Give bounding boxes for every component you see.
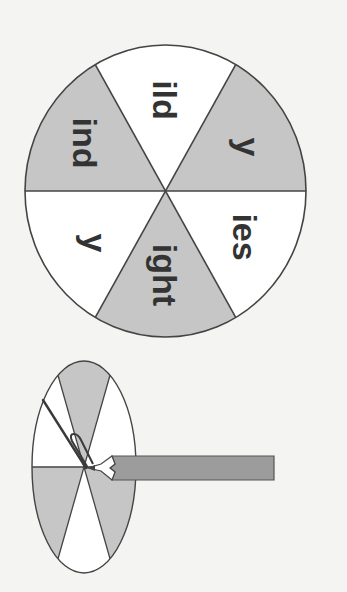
sector-label-bottom: ight: [146, 244, 184, 306]
small-spinner: [32, 361, 274, 573]
sector-label-upper-right: y: [229, 138, 267, 157]
sector-label-upper-left: ind: [66, 118, 104, 169]
big-wheel: ild y ies ight y ind: [25, 45, 306, 337]
diagram-svg: ild y ies ight y ind: [0, 0, 347, 592]
pencil-icon: [88, 456, 274, 480]
sector-label-lower-left: y: [76, 234, 114, 253]
spinner-diagram: ild y ies ight y ind: [0, 0, 347, 592]
sector-label-top: ild: [146, 80, 184, 120]
sector-label-lower-right: ies: [226, 213, 264, 260]
